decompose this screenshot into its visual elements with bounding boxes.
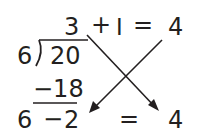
- top-result: 4: [168, 15, 183, 39]
- bottom-result: 4: [168, 108, 183, 132]
- bottom-right-operand: 2: [64, 108, 79, 132]
- arrow-line-down-left: [93, 40, 162, 109]
- bottom-equals: =: [119, 107, 139, 131]
- plus-sign: +: [91, 13, 111, 37]
- top-equals: =: [133, 13, 153, 37]
- subtraction-product: −18: [33, 77, 84, 101]
- division-bracket: [36, 40, 41, 66]
- addend-one: I: [116, 15, 123, 39]
- divisor: 6: [17, 44, 32, 68]
- arrow-line-down-right: [87, 35, 156, 108]
- minus-sign: −: [43, 107, 63, 131]
- bottom-left-operand: 6: [17, 108, 32, 132]
- dividend: 20: [50, 44, 81, 68]
- quotient: 3: [64, 15, 79, 39]
